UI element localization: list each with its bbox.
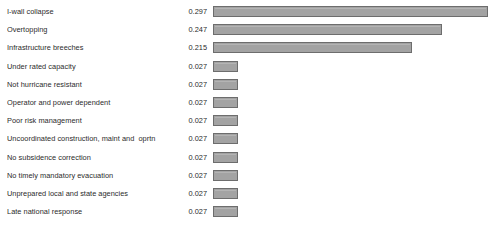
chart-row: Poor risk management0.027 [0, 112, 495, 130]
value-label: 0.027 [152, 149, 207, 167]
bar [213, 6, 488, 17]
bar-highlight [215, 81, 236, 82]
value-label: 0.027 [152, 94, 207, 112]
bar [213, 170, 238, 181]
bar-highlight [215, 26, 440, 27]
bar-highlight [215, 44, 410, 45]
chart-row: Unprepared local and state agencies0.027 [0, 185, 495, 203]
value-label: 0.027 [152, 112, 207, 130]
chart-row: Uncoordinated construction, maint and op… [0, 130, 495, 148]
value-label: 0.027 [152, 76, 207, 94]
chart-row: Overtopping0.247 [0, 21, 495, 39]
bar-track [213, 188, 495, 200]
bar [213, 42, 412, 53]
value-label: 0.215 [152, 39, 207, 57]
bar [213, 206, 238, 217]
chart-row: No subsidence correction0.027 [0, 149, 495, 167]
bar [213, 97, 238, 108]
bar-track [213, 6, 495, 18]
bar-chart: I-wall collapse0.297Overtopping0.247Infr… [0, 0, 495, 226]
bar [213, 61, 238, 72]
value-label: 0.027 [152, 167, 207, 185]
bar-highlight [215, 172, 236, 173]
bar-highlight [215, 99, 236, 100]
chart-row: Under rated capacity0.027 [0, 58, 495, 76]
bar-track [213, 152, 495, 164]
bar [213, 152, 238, 163]
bar-track [213, 24, 495, 36]
chart-row: No timely mandatory evacuation0.027 [0, 167, 495, 185]
bar [213, 115, 238, 126]
value-label: 0.027 [152, 58, 207, 76]
value-label: 0.027 [152, 185, 207, 203]
bar [213, 24, 442, 35]
bar [213, 79, 238, 90]
bar [213, 188, 238, 199]
bar-highlight [215, 8, 486, 9]
value-label: 0.027 [152, 130, 207, 148]
bar-highlight [215, 154, 236, 155]
bar-highlight [215, 63, 236, 64]
bar-track [213, 170, 495, 182]
bar-track [213, 61, 495, 73]
chart-row: I-wall collapse0.297 [0, 3, 495, 21]
bar-track [213, 115, 495, 127]
bar-highlight [215, 135, 236, 136]
bar-track [213, 42, 495, 54]
chart-row: Infrastructure breeches0.215 [0, 39, 495, 57]
bar-highlight [215, 190, 236, 191]
value-label: 0.027 [152, 203, 207, 221]
value-label: 0.297 [152, 3, 207, 21]
bar-highlight [215, 117, 236, 118]
bar-track [213, 97, 495, 109]
chart-row: Late national response0.027 [0, 203, 495, 221]
chart-row: Not hurricane resistant0.027 [0, 76, 495, 94]
bar-track [213, 133, 495, 145]
bar-track [213, 206, 495, 218]
chart-row: Operator and power dependent0.027 [0, 94, 495, 112]
bar-highlight [215, 208, 236, 209]
bar-track [213, 79, 495, 91]
bar [213, 133, 238, 144]
value-label: 0.247 [152, 21, 207, 39]
